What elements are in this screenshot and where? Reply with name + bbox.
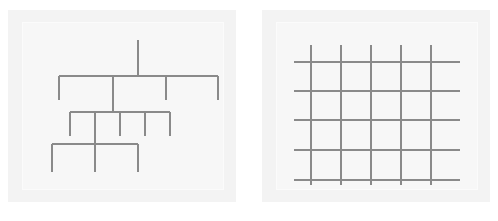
- grid-diagram: [294, 45, 460, 185]
- tree-diagram: [52, 40, 218, 172]
- diagram-canvas: [0, 0, 498, 221]
- diagram-strokes: [0, 0, 498, 221]
